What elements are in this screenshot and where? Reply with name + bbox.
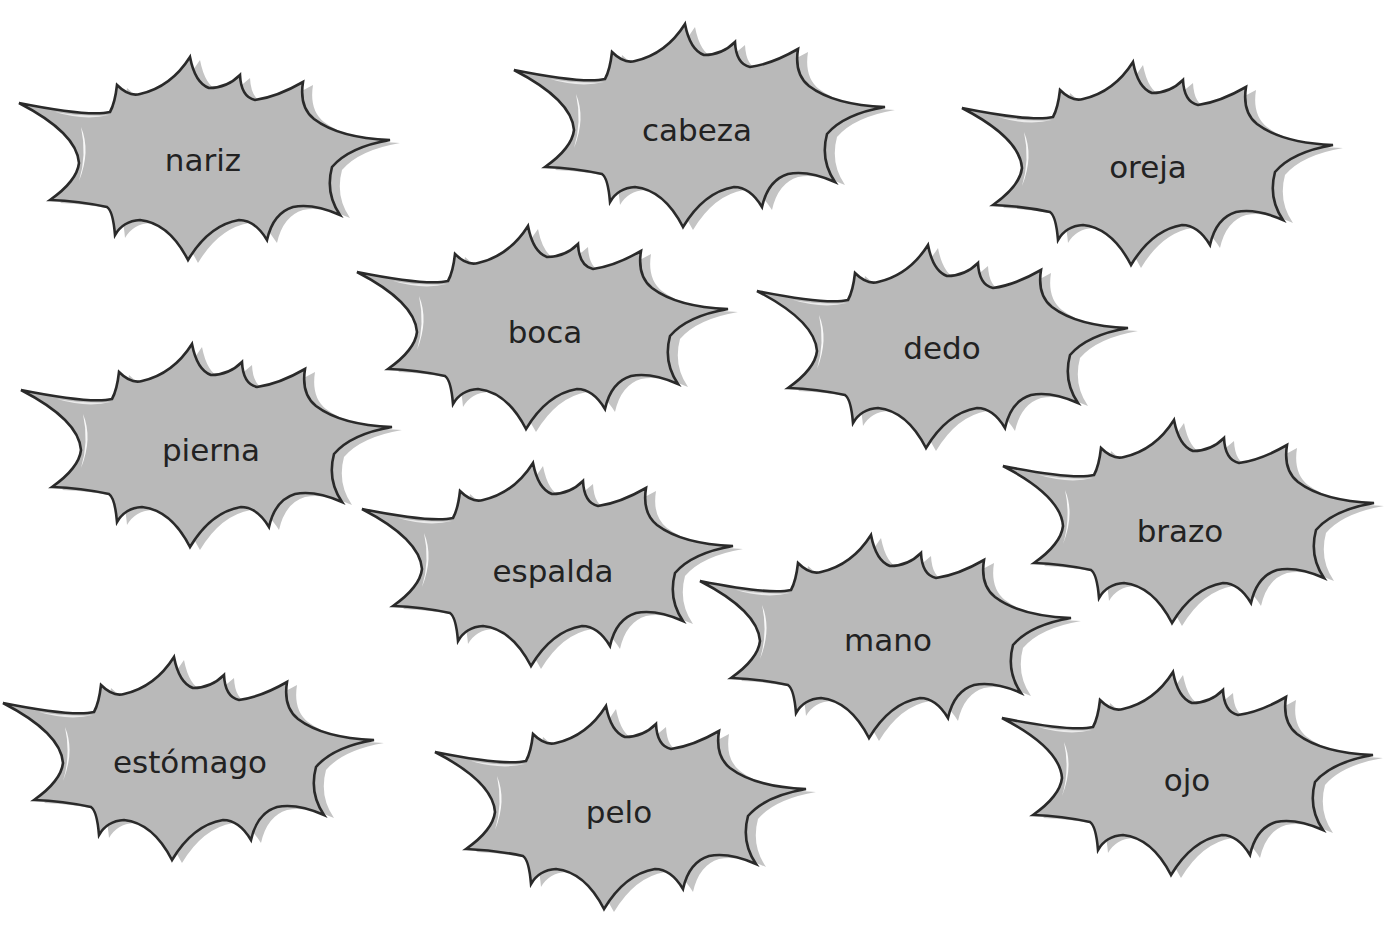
- word-label: espalda: [492, 553, 613, 589]
- word-label: pierna: [162, 432, 260, 468]
- word-label: boca: [508, 314, 583, 350]
- word-burst: pierna: [21, 340, 421, 570]
- word-label: brazo: [1137, 513, 1224, 549]
- word-label: ojo: [1164, 762, 1211, 798]
- word-label: mano: [844, 622, 932, 658]
- word-label: cabeza: [642, 112, 752, 148]
- word-label: pelo: [586, 794, 652, 830]
- word-label: oreja: [1109, 149, 1187, 185]
- word-burst: pelo: [435, 702, 835, 927]
- word-label: nariz: [165, 142, 241, 178]
- word-burst: cabeza: [514, 20, 914, 250]
- word-label: estómago: [113, 744, 267, 780]
- vocabulary-worksheet: nariz cabeza oreja boca dedo pierna espa…: [0, 0, 1392, 927]
- word-burst: estómago: [3, 653, 403, 883]
- word-label: dedo: [903, 330, 980, 366]
- word-burst: ojo: [1002, 668, 1392, 898]
